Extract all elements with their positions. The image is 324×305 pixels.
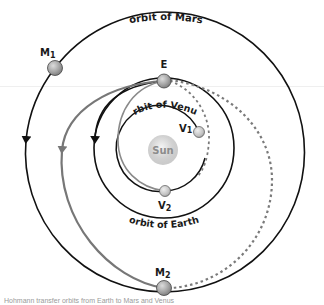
mars-orbit-label: orbit of Mars bbox=[128, 11, 204, 25]
planet-mars-M1: M1 bbox=[40, 47, 63, 76]
orbit-diagram: Sun E M1 M2 V1 V2 orbit of Mars orbit of… bbox=[0, 0, 324, 305]
sun-label: Sun bbox=[152, 145, 173, 156]
planet-venus-V2: V2 bbox=[158, 186, 171, 214]
earth-orbit-label: orbit of Earth bbox=[128, 214, 200, 231]
mars1-body-label: M1 bbox=[40, 47, 56, 60]
planet-venus-V1: V1 bbox=[179, 123, 205, 138]
mars2-body-label: M2 bbox=[155, 267, 171, 280]
earth-to-mars-transfer-path bbox=[62, 81, 164, 150]
venus1-body-label: V1 bbox=[179, 123, 193, 135]
planet-mars-M2: M2 bbox=[155, 267, 172, 296]
figure-caption: Hohmann transfer orbits from Earth to Ma… bbox=[4, 297, 324, 305]
planet-earth-E: E bbox=[157, 59, 171, 88]
earth-body-label: E bbox=[161, 59, 168, 70]
venus2-body-label: V2 bbox=[158, 200, 171, 213]
sun: Sun bbox=[148, 135, 178, 165]
